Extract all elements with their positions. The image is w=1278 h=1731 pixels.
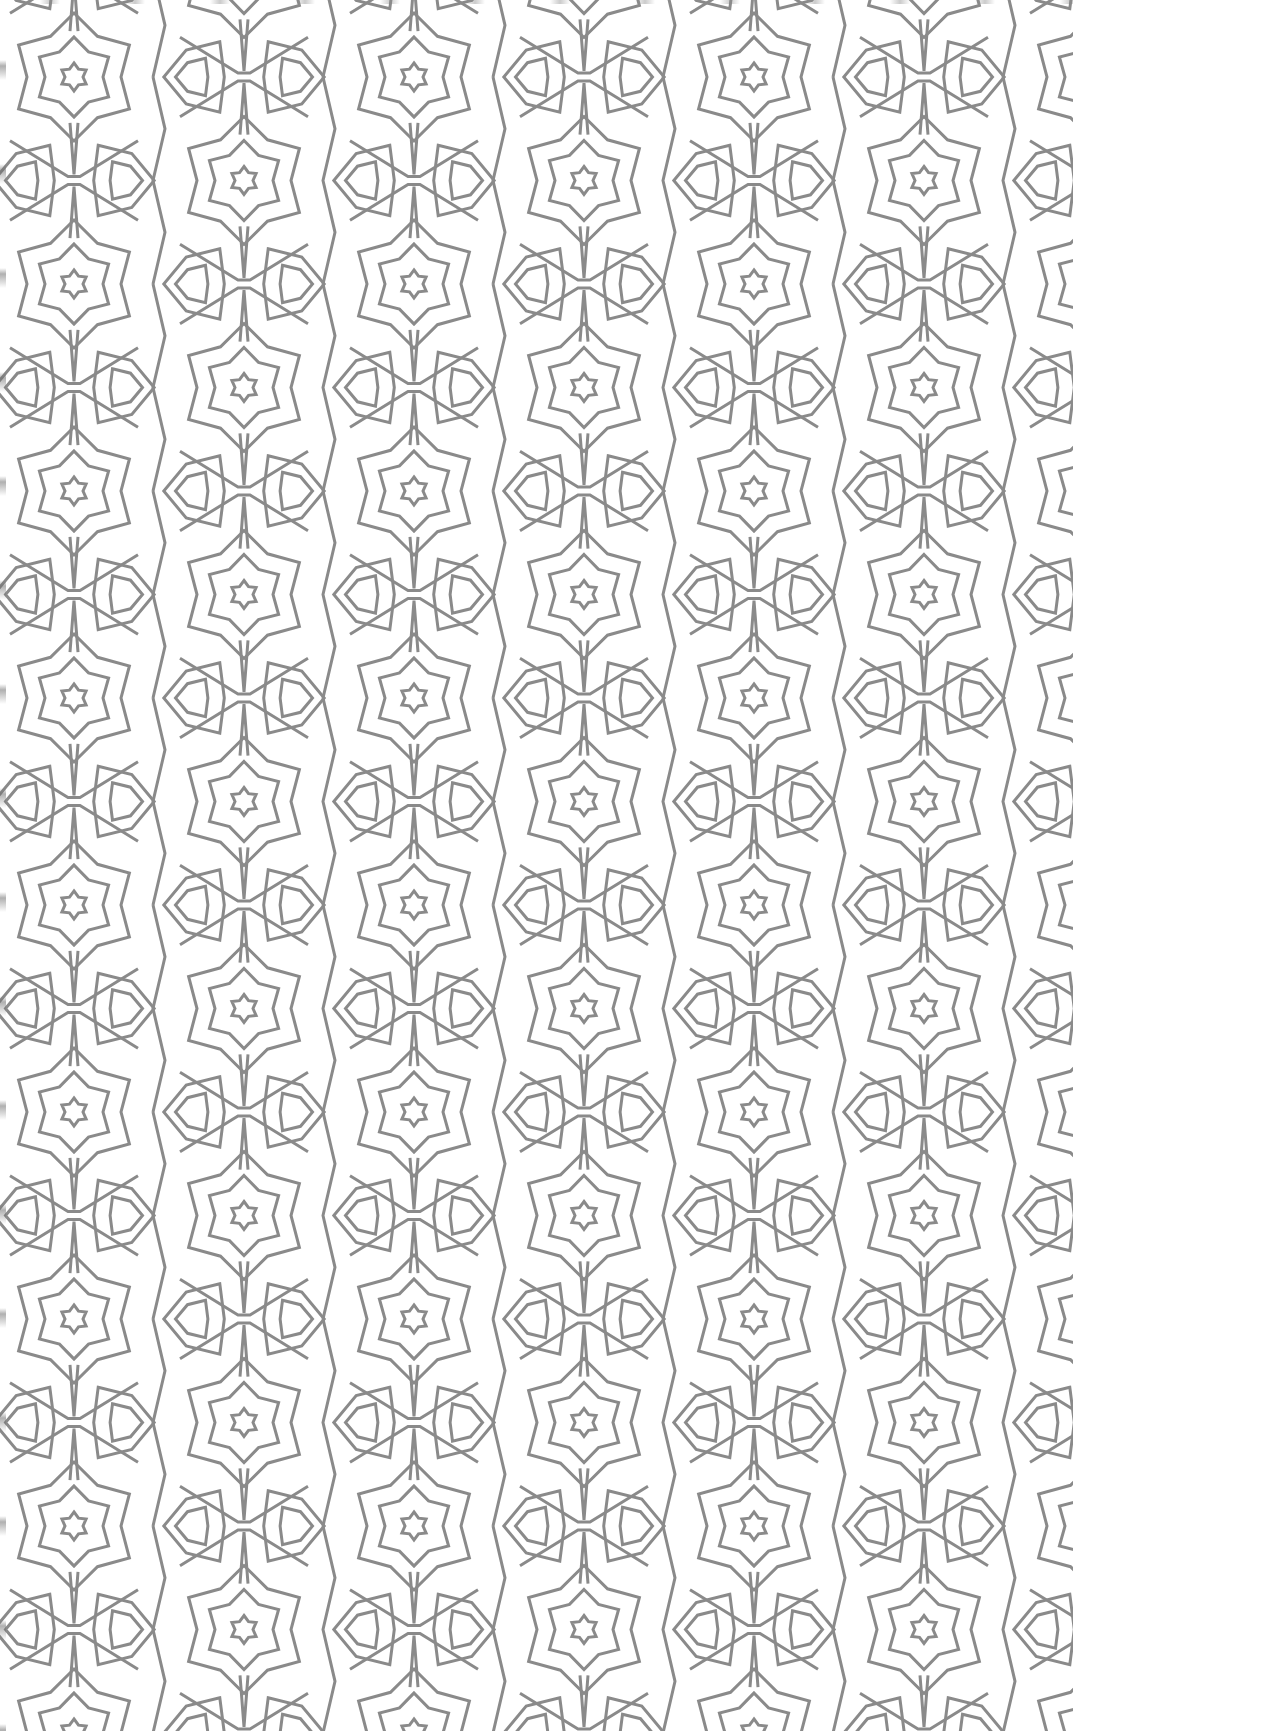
page bbox=[0, 0, 1278, 1731]
star-pattern-graphic bbox=[0, 0, 1073, 1731]
top-scan-edge bbox=[0, 0, 1073, 4]
blank-margin bbox=[1073, 0, 1278, 1731]
geometric-pattern-sheet bbox=[0, 0, 1073, 1731]
pattern-fill bbox=[0, 0, 1073, 1731]
binding-shadow-edge bbox=[0, 0, 6, 1731]
